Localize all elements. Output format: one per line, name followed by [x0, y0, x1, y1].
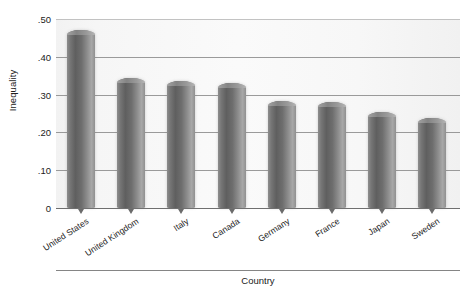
y-tick-label: 0	[5, 203, 51, 214]
bar	[318, 102, 346, 208]
x-tick-mark	[429, 209, 435, 214]
x-axis-rule	[56, 270, 460, 271]
bar	[368, 112, 396, 208]
x-category-label: Canada	[210, 216, 241, 241]
x-category-label: United Kingdom	[83, 216, 140, 258]
y-tick-label: .50	[5, 14, 51, 25]
gridline	[56, 19, 460, 20]
y-axis-tick-labels: 0.10.20.30.40.50	[0, 0, 51, 298]
x-category-label: France	[313, 216, 341, 239]
x-tick-mark	[229, 209, 235, 214]
y-tick-label: .10	[5, 165, 51, 176]
x-tick-mark	[279, 209, 285, 214]
bar	[167, 81, 195, 208]
plot-area	[56, 19, 460, 208]
bar	[218, 83, 246, 208]
y-tick-label: .40	[5, 51, 51, 62]
x-category-label: Italy	[172, 216, 191, 233]
x-tick-mark	[78, 209, 84, 214]
x-tick-mark	[178, 209, 184, 214]
bar	[268, 101, 296, 208]
x-tick-mark	[128, 209, 134, 214]
x-axis-baseline	[56, 208, 460, 209]
gridline	[56, 57, 460, 58]
bar	[117, 78, 145, 208]
y-tick-label: .30	[5, 89, 51, 100]
bar	[418, 118, 446, 208]
x-tick-mark	[379, 209, 385, 214]
bar	[67, 30, 95, 208]
x-category-label: Germany	[256, 216, 291, 244]
x-axis-title: Country	[56, 275, 460, 286]
x-category-label: Sweden	[410, 216, 442, 241]
y-tick-label: .20	[5, 127, 51, 138]
bar-chart-figure: Inequality 0.10.20.30.40.50 United State…	[0, 0, 472, 298]
x-tick-mark	[329, 209, 335, 214]
x-category-label: Japan	[366, 216, 391, 237]
